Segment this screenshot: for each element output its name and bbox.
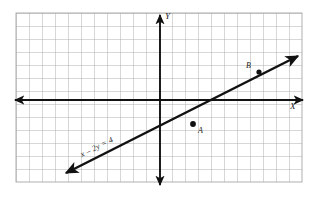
graph-canvas bbox=[0, 0, 318, 197]
point-b-label: B bbox=[246, 62, 251, 70]
y-axis-label: Y bbox=[165, 12, 170, 21]
point-a-dot bbox=[190, 121, 196, 127]
coordinate-plane-figure: Y X A B x – 2y = 4 bbox=[0, 0, 318, 197]
x-axis-label: X bbox=[290, 102, 296, 111]
point-a-label: A bbox=[198, 127, 203, 135]
grid-lines bbox=[16, 13, 302, 182]
point-b-dot bbox=[256, 69, 261, 74]
